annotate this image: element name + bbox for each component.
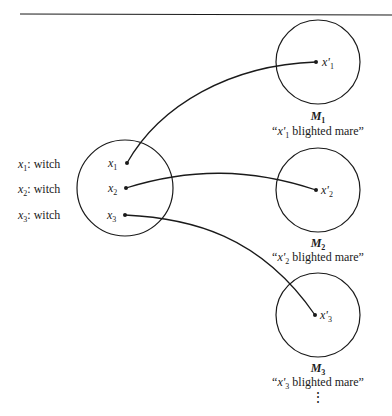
point-x2prime xyxy=(314,188,318,192)
point-label-x3prime: x'3 xyxy=(320,309,332,324)
assignment-label: witch xyxy=(34,157,61,171)
model-name-m1: M1 xyxy=(311,110,326,125)
assignment-x1: x1: witch xyxy=(18,158,60,173)
point-sub: 2 xyxy=(113,188,117,197)
top-rule xyxy=(20,14,392,15)
model-circle-m3 xyxy=(276,273,360,357)
point-label-x3: x3 xyxy=(107,209,116,224)
point-sub: 1 xyxy=(113,163,117,172)
point-label-x1prime: x'1 xyxy=(322,56,334,71)
point-label-x2: x2 xyxy=(108,182,117,197)
connection-x2-to-x2prime xyxy=(126,173,316,190)
model-caption-m3: “x'3 blighted mare” xyxy=(272,376,364,391)
continuation-ellipsis: ⋮ xyxy=(311,391,325,405)
point-label-x1: x1 xyxy=(108,157,117,172)
model-caption-m2: “x'2 blighted mare” xyxy=(272,251,364,266)
point-x3 xyxy=(123,213,127,217)
connection-x1-to-x1prime xyxy=(127,62,316,163)
point-x3prime xyxy=(313,313,317,317)
point-sub: 1 xyxy=(330,62,334,71)
point-label-x2prime: x'2 xyxy=(321,184,333,199)
caption-text: blighted mare” xyxy=(289,124,364,138)
model-name: M xyxy=(311,109,322,123)
point-sub: 2 xyxy=(329,190,333,199)
caption-text: blighted mare” xyxy=(289,375,364,389)
assignment-sep: : xyxy=(27,157,30,171)
assignment-label: witch xyxy=(34,182,61,196)
point-var: x' xyxy=(321,183,329,197)
assignment-sep: : xyxy=(27,182,30,196)
point-x1prime xyxy=(314,60,318,64)
point-x1 xyxy=(125,161,129,165)
point-sub: 3 xyxy=(112,215,116,224)
point-var: x' xyxy=(320,308,328,322)
assignment-x2: x2: witch xyxy=(18,183,60,198)
point-x2 xyxy=(124,186,128,190)
model-name: M xyxy=(311,236,322,250)
assignment-x3: x3: witch xyxy=(18,209,60,224)
model-name: M xyxy=(311,361,322,375)
assignment-sep: : xyxy=(27,208,30,222)
point-sub: 3 xyxy=(328,315,332,324)
model-caption-m1: “x'1 blighted mare” xyxy=(272,125,364,140)
point-var: x' xyxy=(322,55,330,69)
assignment-label: witch xyxy=(34,208,61,222)
caption-text: blighted mare” xyxy=(289,250,364,264)
